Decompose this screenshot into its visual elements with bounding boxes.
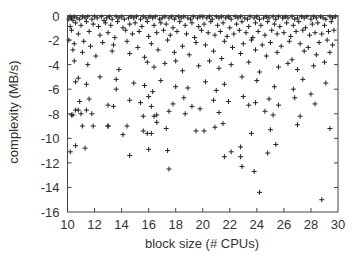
data-point-plus-marker bbox=[202, 128, 207, 133]
data-point-plus-marker bbox=[81, 39, 86, 44]
data-point-plus-marker bbox=[161, 28, 166, 33]
data-point-plus-marker bbox=[284, 20, 289, 25]
data-point-plus-marker bbox=[180, 68, 185, 73]
x-tick-label: 28 bbox=[304, 217, 318, 232]
x-axis-label: block size (# CPUs) bbox=[145, 236, 259, 251]
data-point-plus-marker bbox=[253, 20, 258, 25]
data-point-plus-marker bbox=[170, 25, 175, 30]
data-point-plus-marker bbox=[191, 14, 196, 19]
data-point-plus-marker bbox=[153, 14, 158, 19]
data-point-plus-marker bbox=[74, 15, 79, 20]
data-point-plus-marker bbox=[295, 122, 300, 127]
data-point-plus-marker bbox=[111, 42, 116, 47]
data-point-plus-marker bbox=[138, 100, 143, 105]
data-point-plus-marker bbox=[79, 23, 84, 28]
data-point-plus-marker bbox=[322, 23, 327, 28]
data-point-plus-marker bbox=[214, 88, 219, 93]
data-point-plus-marker bbox=[168, 33, 173, 38]
data-point-plus-marker bbox=[252, 169, 257, 174]
data-point-plus-marker bbox=[323, 17, 328, 22]
data-point-plus-marker bbox=[300, 28, 305, 33]
data-point-plus-marker bbox=[281, 30, 286, 35]
x-tick-label: 18 bbox=[168, 217, 182, 232]
data-point-plus-marker bbox=[127, 98, 132, 103]
data-point-plus-marker bbox=[276, 14, 281, 19]
y-axis: 0-2-4-6-8-10-12-14-16 bbox=[41, 9, 338, 221]
data-point-plus-marker bbox=[221, 121, 226, 126]
data-point-plus-marker bbox=[91, 22, 96, 27]
data-point-plus-marker bbox=[83, 146, 88, 151]
y-tick-label: -4 bbox=[48, 58, 60, 73]
y-tick-label: -6 bbox=[48, 82, 60, 97]
data-point-plus-marker bbox=[256, 29, 261, 34]
data-point-plus-marker bbox=[125, 39, 130, 44]
data-point-plus-marker bbox=[73, 108, 78, 113]
data-point-plus-marker bbox=[175, 29, 180, 34]
data-point-plus-marker bbox=[311, 14, 316, 19]
data-point-plus-marker bbox=[89, 17, 94, 22]
data-point-plus-marker bbox=[331, 28, 336, 33]
data-point-plus-marker bbox=[162, 14, 167, 19]
data-point-plus-marker bbox=[195, 15, 200, 20]
data-point-plus-marker bbox=[248, 14, 253, 19]
data-point-plus-marker bbox=[185, 85, 190, 90]
data-point-plus-marker bbox=[150, 89, 155, 94]
x-tick-label: 30 bbox=[331, 217, 345, 232]
data-point-plus-marker bbox=[137, 29, 142, 34]
data-point-plus-marker bbox=[241, 94, 246, 99]
data-point-plus-marker bbox=[145, 60, 150, 65]
data-point-plus-marker bbox=[291, 23, 296, 28]
data-point-plus-marker bbox=[219, 56, 224, 61]
data-point-plus-marker bbox=[139, 24, 144, 29]
data-point-plus-marker bbox=[164, 22, 169, 27]
data-point-plus-marker bbox=[127, 153, 132, 158]
data-point-plus-marker bbox=[298, 41, 303, 46]
x-tick-label: 10 bbox=[60, 217, 74, 232]
data-point-plus-marker bbox=[127, 22, 132, 27]
data-point-plus-marker bbox=[192, 35, 197, 40]
data-point-plus-marker bbox=[181, 95, 186, 100]
data-point-plus-marker bbox=[233, 14, 238, 19]
data-point-plus-marker bbox=[166, 109, 171, 114]
data-point-plus-marker bbox=[154, 112, 159, 117]
data-point-plus-marker bbox=[183, 23, 188, 28]
data-point-plus-marker bbox=[185, 15, 190, 20]
data-point-plus-marker bbox=[239, 19, 244, 24]
data-point-plus-marker bbox=[302, 15, 307, 20]
data-point-plus-marker bbox=[206, 30, 211, 35]
data-point-plus-marker bbox=[288, 34, 293, 39]
data-point-plus-marker bbox=[84, 108, 89, 113]
data-point-plus-marker bbox=[219, 14, 224, 19]
y-tick-label: -12 bbox=[41, 156, 60, 171]
data-point-plus-marker bbox=[80, 50, 85, 55]
data-point-plus-marker bbox=[308, 92, 313, 97]
data-point-plus-marker bbox=[173, 58, 178, 63]
data-point-plus-marker bbox=[166, 167, 171, 172]
data-point-plus-marker bbox=[80, 14, 85, 19]
data-point-plus-marker bbox=[290, 57, 295, 62]
data-point-plus-marker bbox=[254, 78, 259, 83]
data-point-plus-marker bbox=[183, 111, 188, 116]
data-point-plus-marker bbox=[239, 74, 244, 79]
y-tick-label: -2 bbox=[48, 33, 60, 48]
data-point-plus-marker bbox=[70, 47, 75, 52]
data-point-plus-marker bbox=[216, 15, 221, 20]
data-point-plus-marker bbox=[156, 47, 161, 52]
y-tick-label: -14 bbox=[41, 180, 60, 195]
data-point-plus-marker bbox=[198, 106, 203, 111]
data-point-plus-marker bbox=[181, 14, 186, 19]
data-point-plus-marker bbox=[99, 14, 104, 19]
y-tick-label: -10 bbox=[41, 131, 60, 146]
data-point-plus-marker bbox=[271, 14, 276, 19]
data-point-plus-marker bbox=[227, 25, 232, 30]
data-point-plus-marker bbox=[170, 101, 175, 106]
data-point-plus-marker bbox=[154, 120, 159, 125]
data-point-plus-marker bbox=[253, 47, 258, 52]
data-point-plus-marker bbox=[330, 42, 335, 47]
data-point-plus-marker bbox=[204, 15, 209, 20]
data-point-plus-marker bbox=[292, 95, 297, 100]
data-point-plus-marker bbox=[292, 17, 297, 22]
data-point-plus-marker bbox=[306, 45, 311, 50]
data-point-plus-marker bbox=[211, 98, 216, 103]
data-point-plus-marker bbox=[215, 23, 220, 28]
